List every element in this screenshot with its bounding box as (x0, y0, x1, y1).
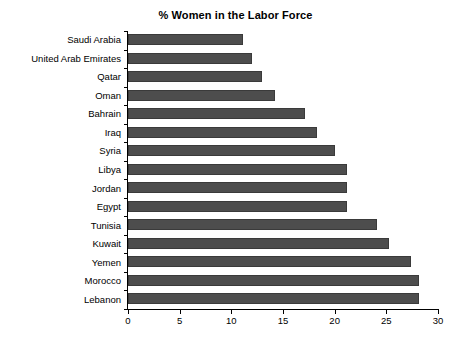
bar (128, 219, 377, 230)
y-axis-tick (124, 31, 128, 32)
x-axis-label: 0 (125, 316, 130, 326)
bar-row: Bahrain (128, 105, 438, 124)
x-axis-tick (180, 310, 181, 314)
y-axis-label: Saudi Arabia (67, 36, 121, 46)
y-axis-label: Iraq (105, 128, 121, 138)
bar-row: Jordan (128, 179, 438, 198)
y-axis-label: Oman (95, 91, 121, 101)
y-axis-label: United Arab Emirates (31, 54, 121, 64)
bar-row: Syria (128, 142, 438, 161)
x-axis-tick (386, 310, 387, 314)
bar-row: Iraq (128, 124, 438, 143)
x-axis-tick (231, 310, 232, 314)
y-axis-label: Kuwait (92, 239, 121, 249)
bar (128, 293, 419, 304)
bar-row: Lebanon (128, 290, 438, 309)
y-axis-tick (124, 216, 128, 217)
bar (128, 90, 275, 101)
y-axis-label: Egypt (97, 202, 121, 212)
chart-title: % Women in the Labor Force (0, 9, 471, 21)
y-axis-tick (124, 68, 128, 69)
y-axis-tick (124, 87, 128, 88)
plot-area: Saudi ArabiaUnited Arab EmiratesQatarOma… (128, 31, 438, 309)
y-axis-tick (124, 235, 128, 236)
x-axis-tick (438, 310, 439, 314)
bar (128, 108, 305, 119)
x-axis-label: 25 (381, 316, 392, 326)
y-axis-tick (124, 142, 128, 143)
bar-chart: % Women in the Labor Force Saudi ArabiaU… (0, 0, 471, 341)
x-axis-tick (128, 310, 129, 314)
bar-row: Tunisia (128, 216, 438, 235)
y-axis-label: Tunisia (91, 221, 121, 231)
bar-row: Qatar (128, 68, 438, 87)
bar (128, 71, 262, 82)
x-axis-label: 15 (278, 316, 289, 326)
bar (128, 275, 419, 286)
x-axis-tick (335, 310, 336, 314)
y-axis-tick (124, 179, 128, 180)
bar (128, 127, 317, 138)
x-axis-label: 5 (177, 316, 182, 326)
y-axis-label: Morocco (85, 276, 121, 286)
bar-row: Yemen (128, 253, 438, 272)
y-axis-tick (124, 105, 128, 106)
bar-row: Kuwait (128, 235, 438, 254)
x-axis-label: 30 (433, 316, 444, 326)
bar-row: Oman (128, 87, 438, 106)
y-axis-label: Lebanon (84, 295, 121, 305)
bar (128, 164, 347, 175)
y-axis-label: Syria (99, 147, 121, 157)
y-axis-label: Bahrain (88, 110, 121, 120)
bar (128, 201, 347, 212)
bar-row: Morocco (128, 272, 438, 291)
bar-row: Egypt (128, 198, 438, 217)
y-axis-tick (124, 124, 128, 125)
bar (128, 238, 389, 249)
y-axis-label: Libya (98, 165, 121, 175)
bar (128, 34, 243, 45)
x-axis-tick (283, 310, 284, 314)
y-axis-label: Jordan (92, 184, 121, 194)
x-axis-label: 10 (226, 316, 237, 326)
bar-row: United Arab Emirates (128, 50, 438, 69)
bar-row: Libya (128, 161, 438, 180)
bar (128, 145, 335, 156)
y-axis-tick (124, 198, 128, 199)
y-axis-tick (124, 50, 128, 51)
y-axis-tick (124, 253, 128, 254)
x-axis-label: 20 (329, 316, 340, 326)
y-axis-tick (124, 272, 128, 273)
bar (128, 256, 411, 267)
y-axis-tick (124, 290, 128, 291)
bar (128, 182, 347, 193)
y-axis-label: Qatar (97, 73, 121, 83)
y-axis-label: Yemen (92, 258, 121, 268)
y-axis-tick (124, 161, 128, 162)
bar-row: Saudi Arabia (128, 31, 438, 50)
bar (128, 53, 252, 64)
